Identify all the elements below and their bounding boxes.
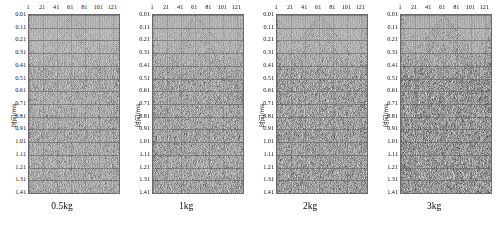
y-tick-label: 0.91: [139, 125, 150, 131]
x-tick-label: 101: [218, 3, 227, 10]
panel-0: 时间/ms 0.010.110.210.310.410.510.610.710.…: [0, 0, 124, 238]
y-tick-label: 1.31: [263, 176, 274, 182]
y-tick-label: 0.41: [15, 62, 26, 68]
y-tick-label: 0.91: [15, 125, 26, 131]
x-tick-label: 101: [94, 3, 103, 10]
seismic-panel-figure: 时间/ms 0.010.110.210.310.410.510.610.710.…: [0, 0, 496, 238]
plot-area: [152, 14, 244, 194]
x-tick-label: 101: [342, 3, 351, 10]
y-tick-label: 0.21: [139, 36, 150, 42]
plot-area: [276, 14, 368, 194]
x-tick-label: 21: [39, 3, 45, 10]
y-tick-label: 0.81: [263, 113, 274, 119]
y-tick-label: 1.11: [263, 151, 274, 157]
y-tick-label: 0.71: [139, 100, 150, 106]
y-tick-label: 0.51: [139, 74, 150, 80]
y-tick-label: 0.21: [387, 36, 398, 42]
y-tick-label: 0.11: [387, 24, 398, 30]
x-tick-label: 61: [439, 3, 445, 10]
y-tick-label: 0.11: [15, 24, 26, 30]
x-tick-label: 21: [411, 3, 417, 10]
y-tick-label: 0.11: [139, 24, 150, 30]
x-tick-label: 21: [287, 3, 293, 10]
y-tick-label: 0.41: [387, 62, 398, 68]
x-tick-label: 81: [329, 3, 335, 10]
panel-caption: 3kg: [372, 200, 496, 212]
panel-3: 时间/ms 0.010.110.210.310.410.510.610.710.…: [372, 0, 496, 238]
y-tick-label: 0.31: [139, 49, 150, 55]
y-tick-label: 1.01: [263, 138, 274, 144]
y-tick-label: 1.31: [15, 176, 26, 182]
x-tick-label: 41: [177, 3, 183, 10]
plot-area: [400, 14, 492, 194]
y-tick-label: 1.41: [15, 189, 26, 195]
y-tick-label: 1.01: [15, 138, 26, 144]
seismic-image: [401, 15, 491, 193]
x-tick-label: 21: [163, 3, 169, 10]
x-axis-ticks: 121416181101121: [276, 3, 366, 12]
y-tick-label: 0.81: [139, 113, 150, 119]
x-tick-label: 61: [67, 3, 73, 10]
y-tick-label: 0.41: [263, 62, 274, 68]
gridline-horizontal: [29, 193, 119, 194]
y-tick-label: 0.61: [387, 87, 398, 93]
y-axis-ticks: 0.010.110.210.310.410.510.610.710.810.91…: [4, 14, 26, 192]
x-axis-ticks: 121416181101121: [400, 3, 490, 12]
x-tick-label: 41: [301, 3, 307, 10]
x-tick-label: 81: [81, 3, 87, 10]
y-tick-label: 0.21: [263, 36, 274, 42]
y-tick-label: 0.81: [387, 113, 398, 119]
x-tick-label: 121: [232, 3, 241, 10]
y-tick-label: 1.41: [139, 189, 150, 195]
x-tick-label: 121: [480, 3, 489, 10]
y-tick-label: 0.01: [139, 11, 150, 17]
x-tick-label: 121: [108, 3, 117, 10]
y-tick-label: 0.41: [139, 62, 150, 68]
y-tick-label: 0.91: [263, 125, 274, 131]
y-axis-ticks: 0.010.110.210.310.410.510.610.710.810.91…: [376, 14, 398, 192]
x-tick-label: 41: [53, 3, 59, 10]
y-tick-label: 0.61: [139, 87, 150, 93]
x-axis-ticks: 121416181101121: [152, 3, 242, 12]
y-axis-ticks: 0.010.110.210.310.410.510.610.710.810.91…: [252, 14, 274, 192]
y-tick-label: 0.71: [387, 100, 398, 106]
y-tick-label: 0.01: [263, 11, 274, 17]
y-tick-label: 1.21: [387, 163, 398, 169]
y-tick-label: 1.11: [387, 151, 398, 157]
y-tick-label: 1.11: [139, 151, 150, 157]
x-tick-label: 1: [150, 3, 153, 10]
x-tick-label: 61: [315, 3, 321, 10]
gridline-horizontal: [153, 193, 243, 194]
y-tick-label: 1.31: [139, 176, 150, 182]
x-tick-label: 1: [274, 3, 277, 10]
seismic-image: [29, 15, 119, 193]
y-tick-label: 0.21: [15, 36, 26, 42]
y-tick-label: 0.31: [15, 49, 26, 55]
y-tick-label: 1.41: [263, 189, 274, 195]
panel-caption: 0.5kg: [0, 200, 124, 212]
y-tick-label: 0.51: [387, 74, 398, 80]
panel-caption: 1kg: [124, 200, 248, 212]
x-tick-label: 1: [26, 3, 29, 10]
y-tick-label: 0.71: [263, 100, 274, 106]
y-tick-label: 0.51: [263, 74, 274, 80]
y-tick-label: 0.11: [263, 24, 274, 30]
x-tick-label: 1: [398, 3, 401, 10]
panel-1: 时间/ms 0.010.110.210.310.410.510.610.710.…: [124, 0, 248, 238]
gridline-horizontal: [277, 193, 367, 194]
seismic-image: [153, 15, 243, 193]
x-tick-label: 41: [425, 3, 431, 10]
y-axis-ticks: 0.010.110.210.310.410.510.610.710.810.91…: [128, 14, 150, 192]
y-tick-label: 1.01: [387, 138, 398, 144]
x-tick-label: 81: [453, 3, 459, 10]
x-axis-ticks: 121416181101121: [28, 3, 118, 12]
y-tick-label: 0.01: [15, 11, 26, 17]
y-tick-label: 0.61: [15, 87, 26, 93]
x-tick-label: 121: [356, 3, 365, 10]
y-tick-label: 1.21: [139, 163, 150, 169]
y-tick-label: 1.21: [263, 163, 274, 169]
x-tick-label: 61: [191, 3, 197, 10]
y-tick-label: 0.91: [387, 125, 398, 131]
y-tick-label: 1.11: [15, 151, 26, 157]
y-tick-label: 0.31: [263, 49, 274, 55]
